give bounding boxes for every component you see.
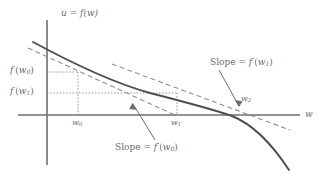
x-tick-base-glyph: w [241, 94, 248, 103]
newton-method-figure: u = f(w) w f (w0) f (w1) w0 w1 w2 Slope … [0, 0, 325, 178]
annotation-prefix: Slope = [115, 142, 154, 152]
y-tick-paren-close: ) [30, 65, 34, 75]
y-axis-label: u = f(w) [61, 9, 98, 18]
tangent-line-w0 [28, 48, 177, 116]
annotation-paren-close: ) [269, 57, 273, 67]
annotation-slope-at-w0: Slope = f′(w0) [115, 143, 178, 152]
x-tick-label-w1: w1 [171, 119, 181, 128]
y-tick-label-f-w0: f (w0) [10, 66, 34, 75]
y-tick-paren-close: ) [30, 86, 34, 96]
x-axis-label-text: w [305, 109, 313, 119]
tangent-line-w1 [112, 64, 290, 130]
annotation-prefix: Slope = [210, 57, 249, 67]
x-tick-base-glyph: w [72, 118, 79, 127]
x-tick-subscript: 0 [79, 121, 82, 127]
x-tick-label-w2: w2 [241, 95, 251, 104]
x-tick-label-w0: w0 [72, 119, 82, 128]
x-tick-subscript: 2 [248, 97, 251, 103]
x-tick-base-glyph: w [171, 118, 178, 127]
x-tick-subscript: 1 [178, 121, 181, 127]
y-axis-label-text: u = f(w) [61, 8, 98, 18]
annotation-paren-close: ) [174, 142, 178, 152]
y-tick-label-f-w1: f (w1) [10, 87, 34, 96]
annotation-slope-at-w1: Slope = f′(w1) [210, 58, 273, 67]
x-axis-label: w [305, 110, 313, 119]
